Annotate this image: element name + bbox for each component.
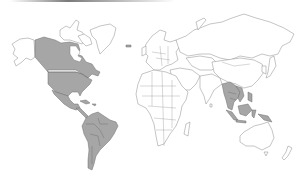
- region-russia[interactable]: [176, 14, 294, 60]
- region-central-america[interactable]: [76, 108, 88, 118]
- region-iceland[interactable]: [126, 45, 131, 47]
- region-new-zealand[interactable]: [282, 146, 292, 160]
- region-south-america[interactable]: [82, 112, 118, 170]
- region-greenland[interactable]: [90, 24, 116, 54]
- region-tasmania[interactable]: [264, 152, 268, 156]
- region-caribbean[interactable]: [80, 100, 96, 106]
- region-sulawesi[interactable]: [252, 110, 256, 118]
- region-java[interactable]: [236, 120, 246, 123]
- world-map: [0, 0, 308, 178]
- region-malaysia-borneo[interactable]: [238, 104, 252, 116]
- region-australia[interactable]: [240, 122, 274, 150]
- region-japan[interactable]: [266, 56, 276, 78]
- region-uk[interactable]: [142, 46, 146, 56]
- region-papua[interactable]: [258, 114, 272, 122]
- region-madagascar[interactable]: [184, 122, 190, 136]
- region-sumatra[interactable]: [226, 110, 238, 120]
- region-alaska[interactable]: [12, 38, 35, 66]
- region-india[interactable]: [200, 74, 222, 104]
- region-sri-lanka[interactable]: [210, 104, 212, 107]
- region-philippines[interactable]: [248, 92, 252, 102]
